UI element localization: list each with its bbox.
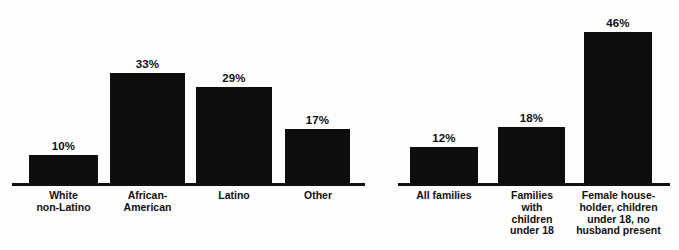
bar-value-latino: 29% [196,72,272,84]
x-axis-line-left [12,183,365,186]
tick-label-line: husband present [568,225,669,237]
tick-label-line: with [490,202,574,214]
plot-area-left: 10% 33% 29% 17% [0,0,372,186]
figure-two-bar-charts: 10% 33% 29% 17% White non-Latino African… [0,0,679,250]
tick-label-families-with-children-under-18: Families with children under 18 [490,190,574,237]
bar-families-with-children-under-18: 18% [498,127,565,186]
x-axis-line-right [398,183,670,186]
tick-label-line: Other [278,190,358,202]
tick-label-all-families: All families [395,190,493,202]
tick-label-line: All families [395,190,493,202]
bar-value-white-non-latino: 10% [29,140,98,152]
bar-latino: 29% [196,87,272,186]
tick-label-line: American [101,202,194,214]
tick-label-line: non-Latino [19,202,108,214]
tick-label-other: Other [278,190,358,202]
tick-label-female-householder: Female house- holder, children under 18,… [568,190,669,237]
tick-label-latino: Latino [189,190,279,202]
tick-label-african-american: African- American [101,190,194,214]
tick-label-line: under 18 [490,225,574,237]
bar-value-african-american: 33% [110,58,185,70]
tick-label-line: holder, children [568,202,669,214]
bar-value-families-with-children-under-18: 18% [498,112,565,124]
chart-poverty-by-race: 10% 33% 29% 17% White non-Latino African… [0,0,372,250]
bar-other: 17% [285,129,350,186]
bar-all-families: 12% [410,147,478,186]
tick-label-line: Latino [189,190,279,202]
bar-white-non-latino: 10% [29,155,98,186]
bar-value-female-householder: 46% [584,17,652,29]
bar-african-american: 33% [110,73,185,186]
chart-poverty-by-family-type: 12% 18% 46% All families Families with c… [392,0,679,250]
plot-area-right: 12% 18% 46% [392,0,679,186]
bar-value-all-families: 12% [410,132,478,144]
bar-female-householder: 46% [584,32,652,186]
tick-label-white-non-latino: White non-Latino [19,190,108,214]
bar-value-other: 17% [285,114,350,126]
